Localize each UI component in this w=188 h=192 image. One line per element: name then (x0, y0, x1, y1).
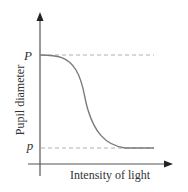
chart: P p Intensity of light Pupil diameter (0, 0, 188, 192)
upper-tick-label: P (23, 48, 32, 63)
y-axis-arrow-icon (37, 12, 44, 21)
lower-tick-label: p (26, 138, 34, 153)
pupil-curve (40, 55, 154, 148)
y-axis-label: Pupil diameter (13, 65, 27, 135)
x-axis-label: Intensity of light (70, 168, 151, 182)
x-axis-arrow-icon (164, 161, 173, 168)
